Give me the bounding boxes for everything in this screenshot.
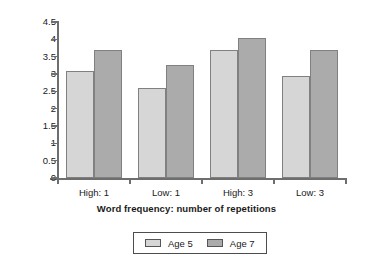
y-axis-tick-mark [51,125,57,127]
x-axis-tick-mark [201,178,203,184]
y-axis-tick-mark [51,56,57,58]
bar-group [274,22,346,178]
y-axis-tick-mark [51,39,57,41]
bar[interactable] [166,65,194,178]
x-axis-tick-mark [129,178,131,184]
x-axis-category-label: High: 3 [202,186,274,199]
legend-swatch-icon [145,239,161,247]
bars-layer [58,22,346,178]
bar-chart: Mean memory span 00.511.522.533.544.5 Hi… [0,0,373,263]
y-axis-tick-mark [51,21,57,23]
bar[interactable] [310,50,338,178]
legend-swatch-icon [207,239,223,247]
y-axis-tick-mark [51,108,57,110]
y-axis-tick-mark [51,143,57,145]
chart-legend: Age 5Age 7 [133,232,267,254]
y-axis-tick-label: 4 [0,33,56,45]
bar[interactable] [138,88,166,178]
x-axis-line [50,178,347,180]
legend-item[interactable]: Age 5 [145,238,193,249]
y-axis-tick-label: 3.5 [0,51,56,63]
bar[interactable] [282,76,310,178]
x-axis-tick-mark [345,178,347,184]
y-axis-tick-label: 1.5 [0,120,56,132]
x-axis-title: Word frequency: number of repetitions [0,203,373,214]
x-axis-category-label: Low: 1 [130,186,202,199]
y-axis-tick-label: 1 [0,137,56,149]
y-axis-tick-mark [51,160,57,162]
x-axis-tick-mark [273,178,275,184]
bar[interactable] [94,50,122,178]
bar-group [130,22,202,178]
bar[interactable] [238,38,266,178]
bar-group [202,22,274,178]
x-axis-category-label: High: 1 [58,186,130,199]
legend-label: Age 7 [230,238,255,249]
y-axis-tick-label: 2.5 [0,85,56,97]
bar[interactable] [210,50,238,178]
y-axis-tick-mark [51,91,57,93]
bar-group [58,22,130,178]
y-axis-tick-label: 2 [0,103,56,115]
y-axis-tick-label: 0.5 [0,155,56,167]
y-axis-tick-label: 3 [0,68,56,80]
legend-item[interactable]: Age 7 [207,238,255,249]
y-axis-tick-label: 0 [0,172,56,184]
y-axis-tick-mark [51,73,57,75]
x-axis-tick-mark [57,178,59,184]
legend-label: Age 5 [168,238,193,249]
y-axis-tick-label: 4.5 [0,16,56,28]
y-axis-tick-mark [51,177,57,179]
x-axis-category-label: Low: 3 [274,186,346,199]
bar[interactable] [66,71,94,178]
